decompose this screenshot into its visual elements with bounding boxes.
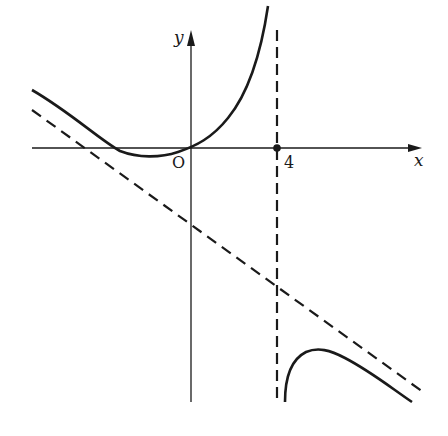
y-axis-label: y [173, 27, 184, 47]
y-axis-arrow-icon [187, 30, 195, 46]
x-axis-label: x [414, 150, 424, 170]
function-graph: y x O 4 [0, 0, 448, 436]
curve-left-branch [32, 6, 268, 156]
curve-right-branch [285, 350, 412, 402]
point-marker [273, 144, 281, 152]
oblique-asymptote [32, 110, 423, 392]
origin-label: O [172, 153, 185, 172]
x-axis [32, 144, 422, 152]
asymptote-value-label: 4 [284, 153, 294, 172]
y-axis [187, 30, 195, 402]
